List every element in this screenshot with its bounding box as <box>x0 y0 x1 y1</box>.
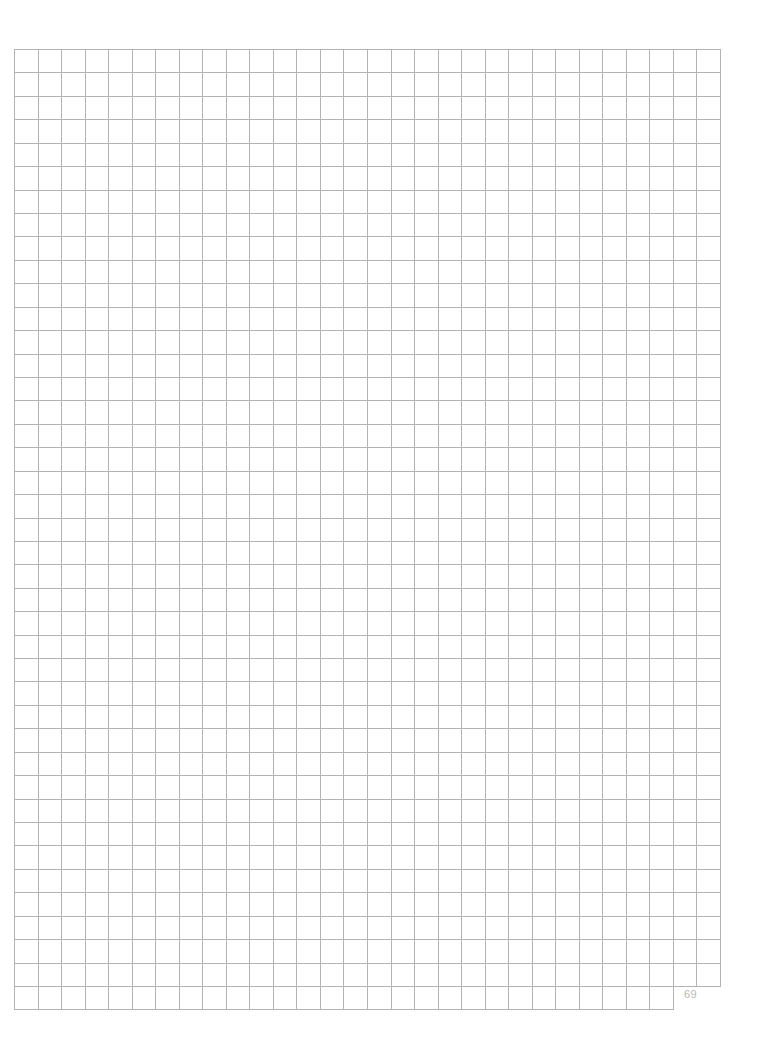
page-number: 69 <box>684 988 697 1000</box>
grid-lines <box>0 0 757 1051</box>
graph-paper-page: 69 <box>0 0 757 1051</box>
